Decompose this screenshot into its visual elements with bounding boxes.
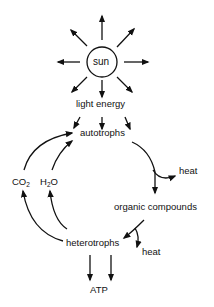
co2-label: CO2 (12, 177, 30, 189)
atp-label: ATP (90, 285, 108, 295)
co2-to-autotrophs-arrow (24, 133, 72, 170)
h2o-to-autotrophs-arrow (52, 141, 72, 170)
heat-top-arrow (153, 170, 175, 178)
heat-bottom-label: heat (142, 247, 161, 257)
diagram-canvas (0, 0, 214, 307)
autotrophs-label: autotrophs (80, 128, 125, 138)
h2o-label: H2O (40, 177, 58, 189)
organic-compounds-label: organic compounds (114, 202, 197, 212)
heterotrophs-to-co2-arrow (23, 191, 63, 241)
heterotrophs-to-h2o-arrow (50, 191, 67, 229)
light-energy-label: light energy (76, 99, 125, 109)
sun-label: sun (93, 57, 109, 67)
organic-to-heterotrophs-arrow (124, 220, 144, 238)
heterotrophs-label: heterotrophs (66, 238, 119, 248)
heat-top-label: heat (179, 166, 198, 176)
autotrophs-to-organic-arrow (132, 142, 155, 193)
heat-bottom-arrow (135, 228, 138, 247)
